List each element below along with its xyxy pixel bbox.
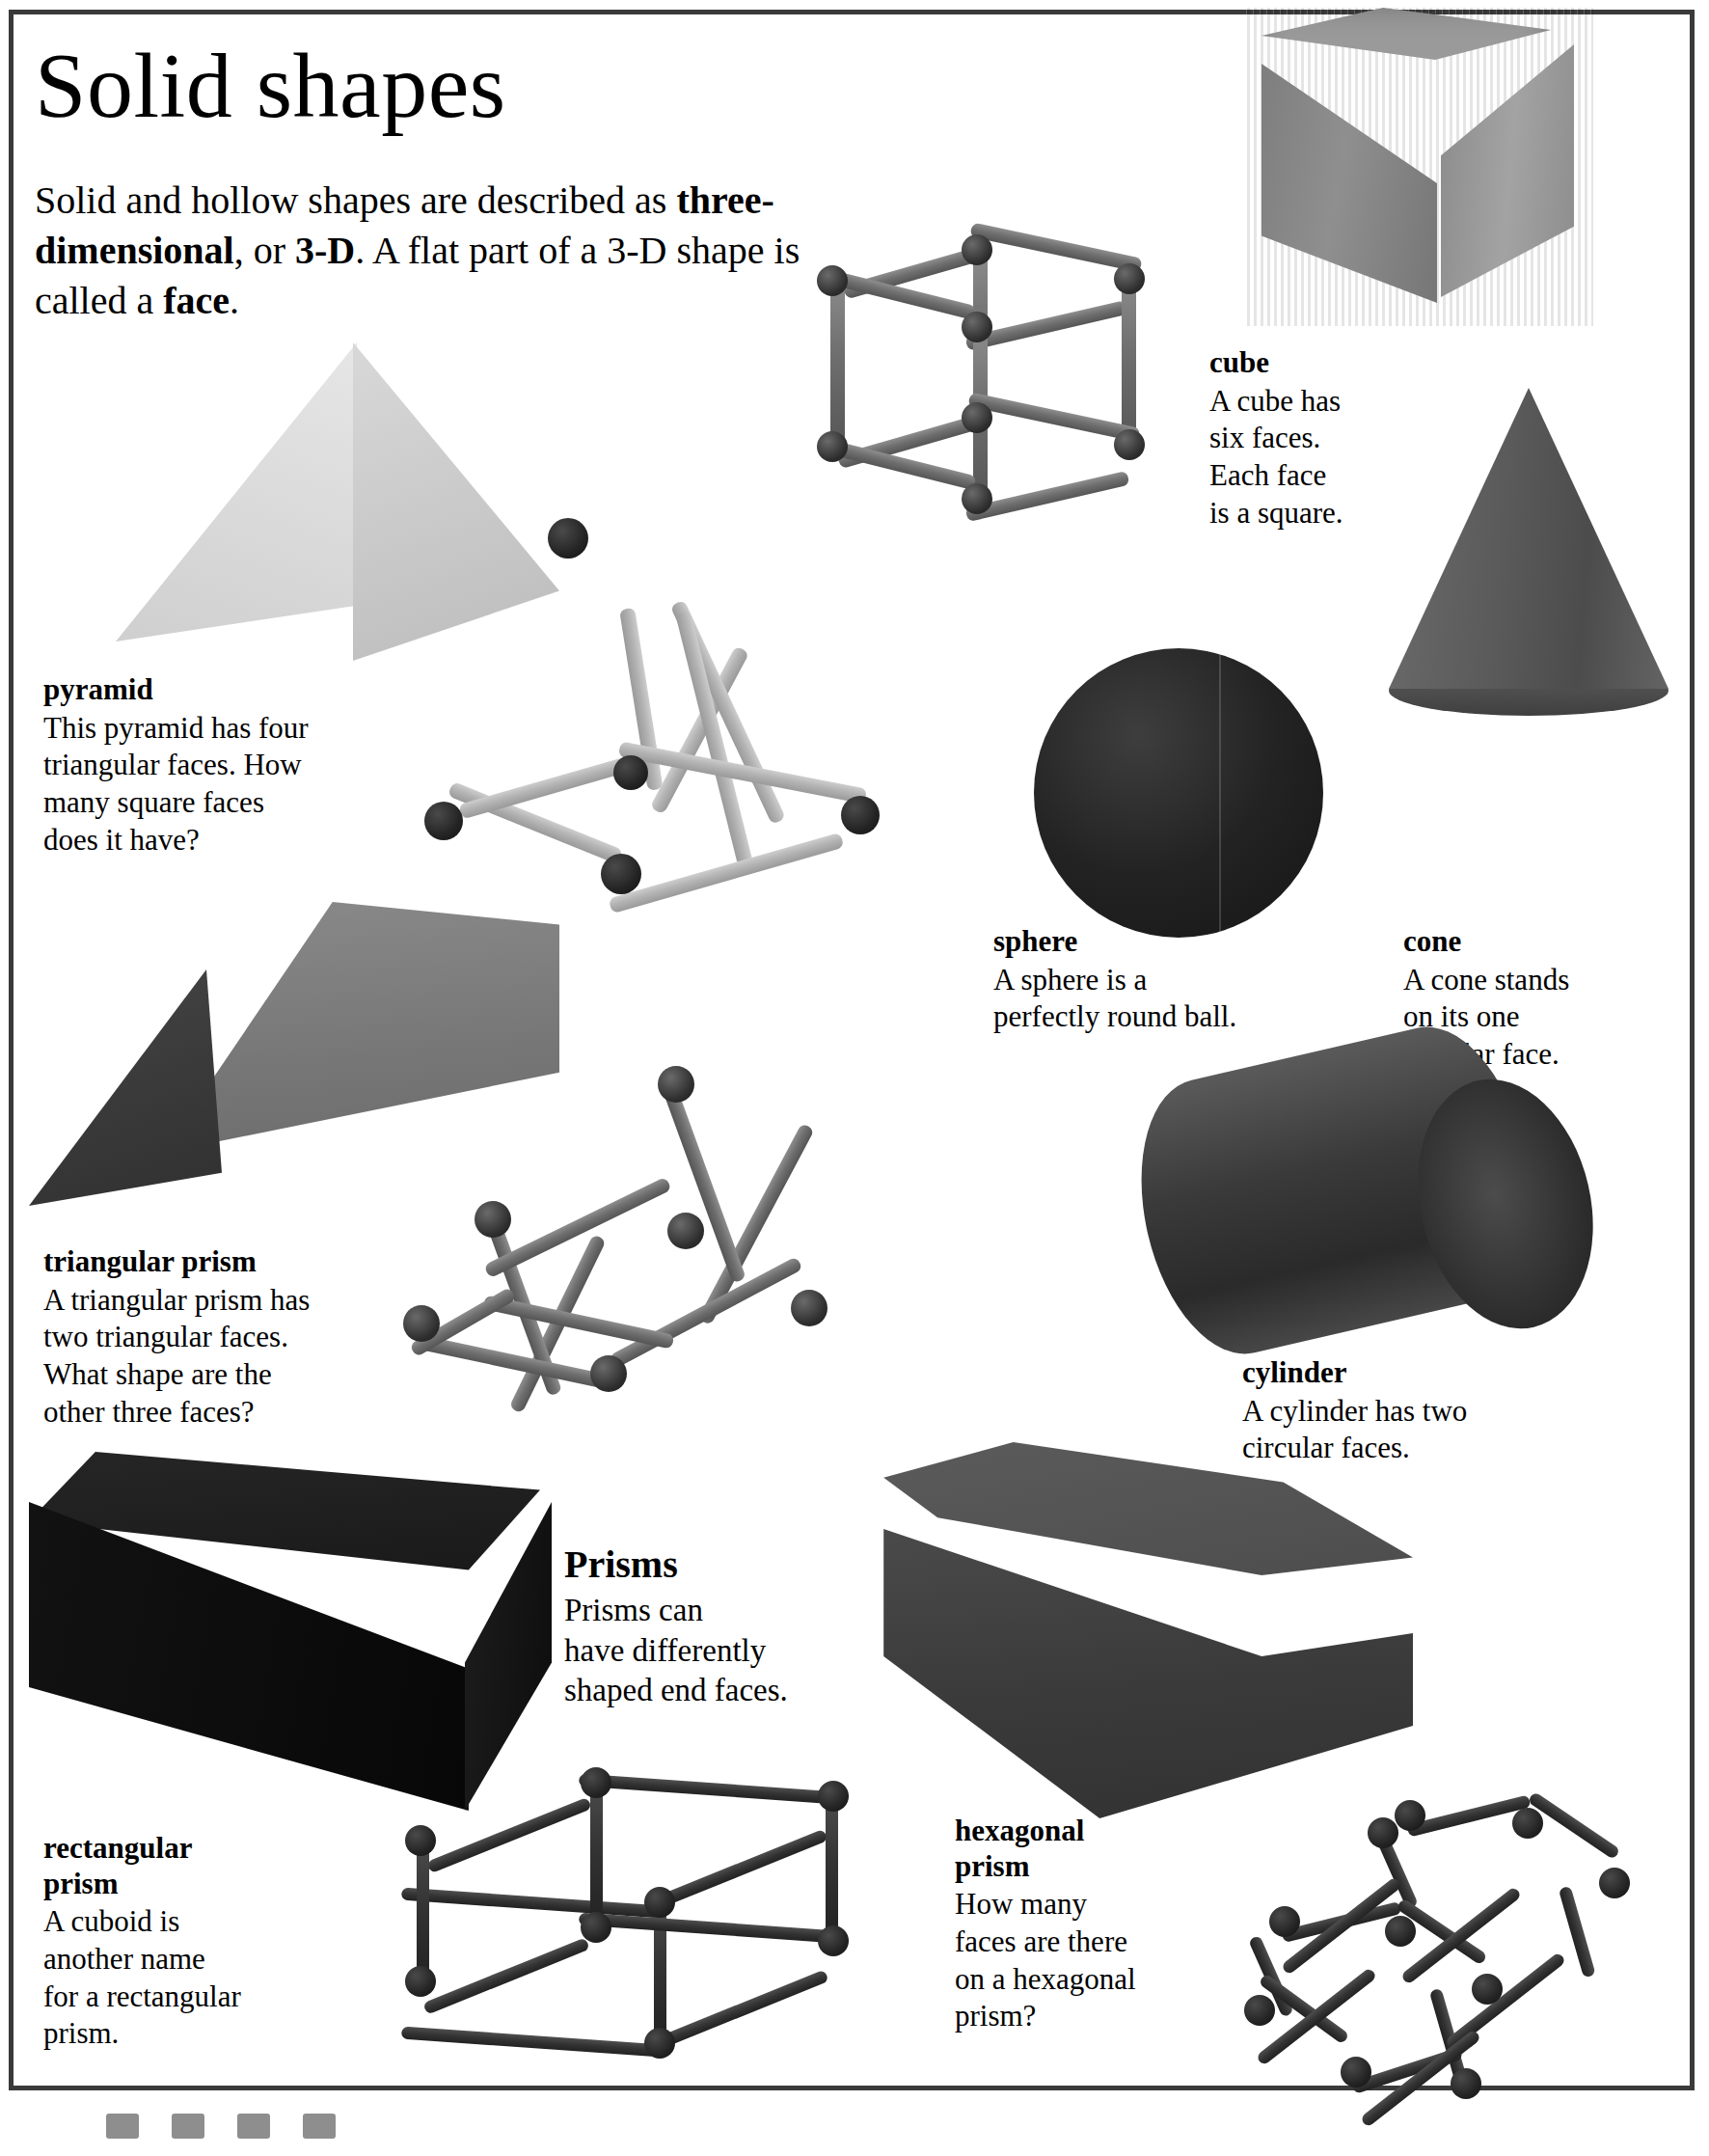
joint	[667, 1213, 704, 1249]
caption-hexagonal-prism-heading: hexagonal prism	[955, 1814, 1234, 1884]
joint	[1385, 1916, 1416, 1947]
caption-cube-heading: cube	[1209, 345, 1431, 381]
joint	[1451, 2068, 1481, 2099]
joint	[962, 234, 992, 265]
term-3d: 3-D	[295, 229, 355, 272]
caption-hexagonal-prism-body: How many faces are there on a hexagonal …	[955, 1886, 1234, 2035]
joint	[424, 802, 463, 840]
rod	[826, 1790, 838, 1937]
bottom-strip-mark	[237, 2114, 270, 2139]
joint	[962, 402, 992, 433]
rod	[416, 1334, 617, 1390]
cube-stick-model	[815, 227, 1220, 555]
caption-prisms: Prisms Prisms can have differently shape…	[564, 1542, 844, 1711]
joint	[817, 431, 848, 462]
joint	[601, 854, 641, 894]
caption-pyramid: pyramid This pyramid has four triangular…	[43, 672, 410, 860]
cylinder-photo	[1124, 1037, 1615, 1346]
rod	[967, 392, 1140, 442]
caption-cone-heading: cone	[1403, 924, 1654, 960]
sphere-photo	[1034, 648, 1323, 938]
caption-cylinder-heading: cylinder	[1242, 1355, 1560, 1391]
caption-sphere-heading: sphere	[993, 924, 1331, 960]
caption-triangular-prism-heading: triangular prism	[43, 1244, 429, 1280]
joint	[613, 755, 648, 790]
page-title: Solid shapes	[35, 39, 506, 133]
joint	[1472, 1974, 1503, 2005]
bottom-strip-mark	[303, 2114, 336, 2139]
joint	[962, 312, 992, 342]
rod	[458, 757, 629, 820]
term-three-dimensional: three-dimensional	[35, 178, 774, 272]
joint	[403, 1305, 440, 1342]
caption-pyramid-body: This pyramid has four triangular faces. …	[43, 710, 410, 860]
joint	[1269, 1906, 1300, 1937]
joint	[1114, 429, 1145, 460]
joint	[581, 1767, 611, 1798]
cone-body	[1389, 388, 1668, 689]
rod	[401, 1888, 662, 1919]
rod	[969, 222, 1142, 272]
joint	[1244, 1995, 1275, 2026]
rod	[609, 832, 845, 914]
joint	[405, 1825, 436, 1856]
joint	[644, 2028, 675, 2059]
joint	[1114, 263, 1145, 294]
joint	[1368, 1817, 1398, 1848]
caption-sphere-body: A sphere is a perfectly round ball.	[993, 962, 1331, 1037]
triangular-prism-stick-model	[424, 1037, 964, 1423]
joint	[791, 1290, 827, 1326]
rod	[658, 1970, 828, 2049]
intro-paragraph: Solid and hollow shapes are described as…	[35, 176, 826, 326]
caption-sphere: sphere A sphere is a perfectly round bal…	[993, 924, 1331, 1036]
joint	[1341, 2057, 1371, 2088]
rod	[830, 273, 845, 451]
rod	[1400, 1886, 1522, 1985]
joint	[658, 1066, 694, 1103]
joint	[475, 1201, 511, 1238]
joint	[817, 265, 848, 296]
joint	[590, 1355, 627, 1392]
rod	[422, 1937, 590, 2014]
caption-pyramid-heading: pyramid	[43, 672, 410, 708]
hexagonal-prism-photo	[873, 1442, 1413, 1828]
rod	[579, 1913, 837, 1944]
cube-right-face	[1429, 44, 1574, 297]
rod	[1559, 1886, 1596, 1979]
rod	[483, 1177, 671, 1279]
joint	[581, 1912, 611, 1943]
bottom-strip-mark	[172, 2114, 204, 2139]
rod	[417, 1835, 429, 1981]
pyramid-stick-model	[424, 526, 936, 912]
pyramid-left-face	[116, 342, 357, 641]
joint	[818, 1781, 849, 1812]
rod	[1122, 271, 1136, 450]
rod	[579, 1774, 837, 1805]
term-face: face	[163, 279, 230, 322]
page-root: Solid shapes Solid and hollow shapes are…	[0, 0, 1709, 2156]
joint	[1395, 1800, 1425, 1831]
caption-rectangular-prism-body: A cuboid is another name for a rectangul…	[43, 1903, 333, 2053]
triangular-prism-end-face	[29, 969, 222, 1206]
rod	[426, 1797, 592, 1873]
sphere-seam-line	[1219, 654, 1221, 932]
rectangular-prism-stick-model	[405, 1746, 916, 2132]
joint	[548, 518, 588, 559]
rod	[658, 1829, 827, 1907]
cube-photo	[1246, 8, 1593, 326]
joint	[1599, 1868, 1630, 1898]
cone-photo	[1389, 388, 1668, 706]
caption-prisms-body: Prisms can have differently shaped end f…	[564, 1591, 844, 1711]
joint	[405, 1966, 436, 1997]
caption-rectangular-prism-heading: rectangular prism	[43, 1831, 333, 1901]
caption-hexagonal-prism: hexagonal prism How many faces are there…	[955, 1814, 1234, 2035]
joint	[818, 1925, 849, 1956]
bottom-strip-mark	[106, 2114, 139, 2139]
cube-top-face	[1261, 8, 1551, 108]
hexagonal-prism-stick-model	[1244, 1775, 1697, 2156]
rod	[483, 1295, 675, 1349]
rod	[401, 2027, 662, 2058]
joint	[841, 796, 880, 834]
joint	[644, 1887, 675, 1918]
caption-rectangular-prism: rectangular prism A cuboid is another na…	[43, 1831, 333, 2053]
